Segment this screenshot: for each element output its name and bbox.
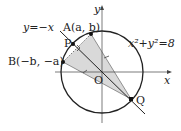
diagram-canvas: y=−x A(a, b) P B(−b, −a) Q x²+y²=8 O x y <box>0 0 181 131</box>
y-axis-label: y <box>93 3 101 16</box>
point-a-label: A(a, b) <box>62 21 100 34</box>
line-label: y=−x <box>22 21 55 34</box>
y-axis-arrow-icon <box>100 5 104 10</box>
point-q <box>129 97 133 101</box>
x-axis-label: x <box>164 74 171 87</box>
circle-equation-label: x²+y²=8 <box>128 37 175 50</box>
origin-label: O <box>94 74 103 87</box>
point-p-label: P <box>64 37 72 50</box>
point-b-label: B(−b, −a) <box>8 55 64 68</box>
point-q-label: Q <box>136 94 145 107</box>
point-p <box>71 42 75 46</box>
